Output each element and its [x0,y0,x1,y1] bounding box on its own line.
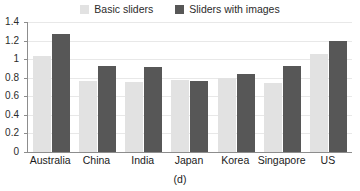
bar-sliders-with-images [144,67,162,152]
bar-basic-sliders [125,82,143,152]
bar-group [213,22,259,152]
bar-group [121,22,167,152]
x-tick-label: Singapore [258,155,306,166]
legend-entry: Basic sliders [80,4,153,15]
bar-basic-sliders [310,54,328,152]
y-tick-label: 0.4 [5,110,19,120]
y-tick-label: 1 [13,54,19,64]
y-tick-mark [24,78,27,79]
y-tick-mark [24,152,27,153]
x-axis-line [27,152,352,153]
x-tick-label: US [321,155,336,166]
bar-basic-sliders [218,78,236,152]
bar-group [74,22,120,152]
x-tick-label: Korea [221,155,249,166]
x-tick-label: Australia [30,155,71,166]
x-tick-label: Japan [175,155,204,166]
bar-basic-sliders [79,81,97,152]
y-tick-mark [24,115,27,116]
x-tick-label: China [83,155,110,166]
legend-entry: Sliders with images [175,4,279,15]
legend-swatch-sliders-with-images [175,5,184,14]
y-tick-mark [24,133,27,134]
y-tick-mark [24,96,27,97]
y-tick-mark [24,41,27,42]
bar-sliders-with-images [190,81,208,153]
bar-basic-sliders [171,80,189,152]
y-tick-mark [24,22,27,23]
chart-legend: Basic slidersSliders with images [0,2,360,16]
bar-groups [28,22,352,152]
x-tick-label: India [131,155,154,166]
y-tick-label: 0.2 [5,128,19,138]
y-tick-label: 0.8 [5,73,19,83]
y-tick-label: 1.2 [5,36,19,46]
legend-label: Basic sliders [94,4,153,15]
y-tick-label: 0.6 [5,91,19,101]
bar-sliders-with-images [237,74,255,152]
bar-sliders-with-images [329,41,347,152]
plot-area: 00.20.40.60.811.21.4 [27,22,352,152]
y-tick-mark [24,59,27,60]
bar-group [306,22,352,152]
bar-sliders-with-images [52,34,70,152]
bar-group [167,22,213,152]
bar-group [28,22,74,152]
legend-label: Sliders with images [189,4,279,15]
y-tick-label: 0 [13,147,19,157]
bar-sliders-with-images [98,66,116,152]
bar-group [259,22,305,152]
bar-chart-figure: Basic slidersSliders with images 00.20.4… [0,0,360,191]
bar-sliders-with-images [283,66,301,152]
bar-basic-sliders [33,56,51,152]
legend-swatch-basic-sliders [80,5,89,14]
bar-basic-sliders [264,83,282,152]
y-tick-label: 1.4 [5,17,19,27]
figure-caption: (d) [0,173,360,185]
